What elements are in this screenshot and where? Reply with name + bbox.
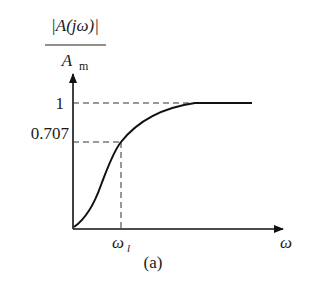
y-tick-label-0707: 0.707 xyxy=(31,124,70,143)
y-label-numerator: |A(jω)| xyxy=(51,16,99,35)
y-axis-label: |A(jω)| A m xyxy=(45,16,106,73)
y-tick-label-1: 1 xyxy=(56,94,65,113)
response-curve xyxy=(74,103,252,227)
y-label-denominator-subscript: m xyxy=(79,59,89,73)
figure-caption: (a) xyxy=(144,253,163,272)
frequency-response-diagram: |A(jω)| A m 1 0.707 ω l ω (a) xyxy=(0,0,313,286)
y-label-denominator: A xyxy=(61,51,73,70)
x-axis-label: ω xyxy=(280,233,292,252)
x-tick-label-omega-l-subscript: l xyxy=(127,242,130,254)
x-tick-label-omega-l: ω xyxy=(112,233,124,252)
